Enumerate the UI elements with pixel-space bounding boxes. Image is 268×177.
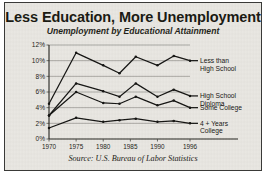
series-marker: [75, 52, 78, 55]
series-marker: [102, 102, 105, 105]
series-marker: [172, 120, 175, 123]
series-marker: [156, 121, 159, 124]
series-marker: [135, 82, 138, 85]
y-axis-tick-label: 12%: [32, 41, 45, 48]
series-marker: [48, 103, 51, 106]
series-marker: [118, 95, 121, 98]
series-marker: [102, 90, 105, 93]
source-note: Source: U.S. Bureau of Labor Statistics: [5, 154, 261, 163]
series-marker: [75, 91, 78, 94]
x-axis-tick-label: 1990: [150, 143, 165, 150]
line-chart-svg: 0%2%4%6%8%10%12%197019751980198519901996…: [5, 3, 262, 171]
chart-figure: Less Education, More Unemployment Unempl…: [4, 2, 262, 171]
series-label-1: High School: [200, 92, 237, 100]
y-axis-tick-label: 2%: [35, 120, 45, 127]
plot-area: 0%2%4%6%8%10%12%197019751980198519901996…: [5, 3, 262, 171]
series-marker: [118, 119, 121, 122]
series-marker: [172, 55, 175, 58]
y-axis-tick-label: 10%: [32, 57, 45, 64]
series-marker: [48, 114, 51, 117]
series-marker: [118, 103, 121, 106]
x-axis-tick-label: 1996: [183, 143, 198, 150]
series-line-1: [49, 83, 190, 115]
series-marker: [135, 56, 138, 59]
y-axis-tick-label: 6%: [35, 88, 45, 95]
series-marker: [48, 127, 51, 130]
series-label-0-line2: High School: [200, 65, 237, 73]
series-marker: [102, 64, 105, 67]
series-marker: [135, 117, 138, 120]
x-axis-tick-label: 1970: [42, 143, 57, 150]
series-marker: [156, 64, 159, 67]
series-marker: [102, 121, 105, 124]
x-axis-tick-label: 1980: [96, 143, 111, 150]
series-label-3: 4 + Years: [200, 120, 229, 127]
series-marker: [172, 88, 175, 91]
series-marker: [135, 95, 138, 98]
y-axis-tick-label: 0%: [35, 135, 45, 142]
series-marker: [156, 95, 159, 98]
x-axis-tick-label: 1975: [69, 143, 84, 150]
series-marker: [75, 117, 78, 120]
series-label-2: Some College: [200, 104, 242, 112]
series-marker: [75, 82, 78, 85]
series-label-0: Less than: [200, 57, 229, 64]
series-marker: [118, 72, 121, 75]
x-axis-tick-label: 1985: [123, 143, 138, 150]
series-marker: [156, 104, 159, 107]
y-axis-tick-label: 8%: [35, 73, 45, 80]
series-marker: [172, 99, 175, 102]
series-label-3-line2: College: [200, 127, 223, 135]
y-axis-tick-label: 4%: [35, 104, 45, 111]
